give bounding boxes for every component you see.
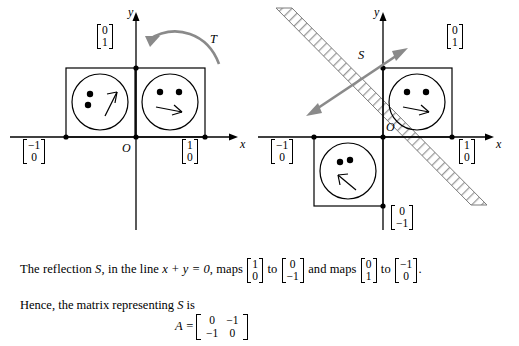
figure-area: x y O	[0, 0, 519, 240]
s1-and: and maps	[305, 262, 360, 276]
sentence-hence: Hence, the matrix representing S is	[20, 298, 195, 313]
s2-part1: Hence, the matrix representing	[20, 298, 177, 312]
matrix-equation: A =0−1−10	[175, 314, 250, 340]
sentence-reflection: The reflection S, in the line x + y = 0,…	[20, 258, 422, 283]
left-vector-right: 10	[181, 139, 199, 164]
s1-line-equation: x + y = 0	[162, 262, 210, 276]
matrix-label: A =	[175, 319, 194, 333]
left-diagram-labels: 01 −10 10 T	[0, 0, 250, 240]
left-vector-top: 01	[96, 24, 114, 49]
s1-part1: The reflection	[20, 262, 95, 276]
s1-end: .	[418, 262, 421, 276]
left-map-label-T: T	[210, 32, 217, 47]
s1-to2: to	[378, 262, 394, 276]
right-vector-top: 01	[446, 24, 464, 49]
s1-part3: , maps	[210, 262, 246, 276]
matrix-A: 0−1−10	[196, 314, 249, 340]
vector-v2: 0−1	[282, 258, 304, 283]
right-map-label-S: S	[358, 48, 364, 63]
vector-v4: −10	[395, 258, 417, 283]
vector-v1: 10	[247, 258, 263, 283]
s2-part2: is	[183, 298, 194, 312]
left-vector-left: −10	[22, 139, 46, 164]
s1-to: to	[264, 262, 280, 276]
explanation-text: The reflection S, in the line x + y = 0,…	[0, 240, 519, 346]
right-vector-left: −10	[270, 139, 294, 164]
s1-part2: , in the line	[101, 262, 162, 276]
right-diagram-labels: 01 −10 10 0−1 S	[250, 0, 519, 240]
vector-v3: 01	[361, 258, 377, 283]
right-vector-bottom: 0−1	[390, 205, 414, 230]
right-vector-right: 10	[458, 139, 476, 164]
